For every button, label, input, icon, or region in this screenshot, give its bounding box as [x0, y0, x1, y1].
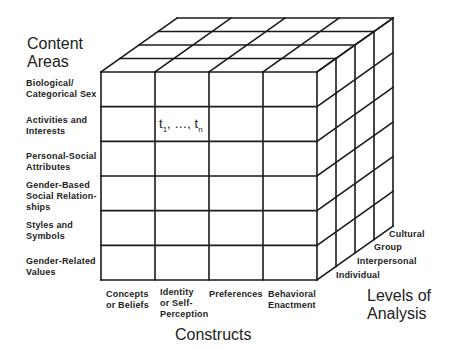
content-area-label-social-relationships: Gender-Based Social Relation- ships	[26, 180, 97, 213]
content-areas-title-line1: Content	[27, 35, 83, 53]
construct-label-behavioral-enactment: Behavioral Enactment	[268, 289, 316, 311]
content-areas-title: Content Areas	[27, 35, 83, 71]
content-area-label-biological-sex: Biological/ Categorical Sex	[26, 78, 97, 100]
levels-title-line2: Analysis	[367, 305, 431, 323]
time-points-annotation: t1, …, tn	[159, 116, 203, 134]
level-label-cultural: Cultural	[389, 229, 425, 240]
constructs-title: Constructs	[175, 326, 251, 344]
level-label-group: Group	[374, 242, 402, 253]
levels-of-analysis-title: Levels of Analysis	[367, 287, 431, 323]
construct-label-preferences: Preferences	[209, 289, 263, 300]
construct-label-identity: Identity or Self- Perception	[160, 287, 209, 320]
level-label-individual: Individual	[336, 270, 380, 281]
level-label-interpersonal: Interpersonal	[357, 256, 417, 267]
levels-title-line1: Levels of	[367, 287, 431, 305]
content-area-label-activities-interests: Activities and Interests	[26, 115, 87, 137]
construct-label-concepts-beliefs: Concepts or Beliefs	[106, 289, 149, 311]
content-area-label-personal-social-attributes: Personal-Social Attributes	[26, 151, 97, 173]
content-area-label-styles-symbols: Styles and Symbols	[26, 220, 73, 242]
content-area-label-gender-related-values: Gender-Related Values	[26, 256, 96, 278]
content-areas-title-line2: Areas	[27, 53, 83, 71]
